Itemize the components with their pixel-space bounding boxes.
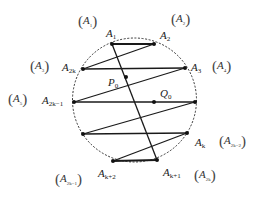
label-a3: A3 [191,62,201,75]
segment-ak2-ak1 [113,160,157,161]
point-a1 [110,42,114,46]
paren-label-a3: (A3) [30,59,49,74]
segment-ak-ak2 [113,133,187,161]
point-ak1 [155,158,159,162]
paren-label-a2k-2: (A2k−2) [219,134,246,149]
paren-label-a5: (A5) [8,92,27,107]
point-ak [185,131,189,135]
segment-left-ak [83,133,187,134]
label-ak: Ak [195,137,205,150]
label-a2k: A2k [62,62,76,75]
point-q0 [152,100,156,104]
segment-a2-a2k [83,44,154,69]
chord-segments [74,44,195,161]
paren-label-a1: (A1) [78,14,97,29]
label-ak1: Ak+1 [163,167,181,180]
point-a3 [183,66,187,70]
point-a2k [81,67,85,71]
dashed-circle [73,38,197,162]
paren-label-a2k-1: (A2k−1) [55,172,82,187]
paren-label-a4: (A4) [212,59,231,74]
label-a1: A1 [106,28,116,41]
point-right [193,100,197,104]
label-q0: Q0 [160,88,171,101]
label-a2k-1: A2k−1 [42,95,63,108]
label-ak2: Ak+2 [98,168,116,181]
point-ak2 [111,159,115,163]
paren-label-a2: (A2) [171,12,190,27]
paren-label-a2k: (A2k) [194,168,216,183]
label-p0: P0 [108,77,118,90]
point-left [81,132,85,136]
point-a2k-1 [72,100,76,104]
label-a2: A2 [160,30,170,43]
segment-right-left [83,102,195,134]
segment-a2k-a3 [83,68,185,69]
point-a2 [152,42,156,46]
point-p0 [124,75,128,79]
chord-diagram [0,0,265,203]
